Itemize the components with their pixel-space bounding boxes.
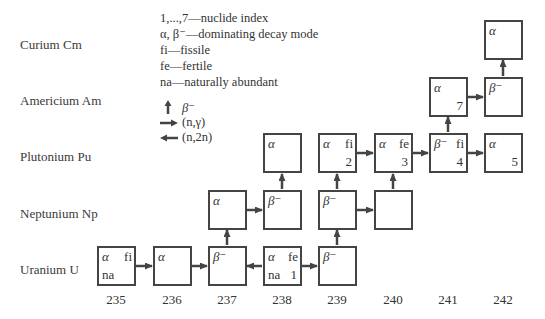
nuclide-pu238: α xyxy=(263,133,302,173)
nuclide-np240 xyxy=(374,190,413,230)
nuclide-u237: β⁻ xyxy=(208,246,247,286)
nuclide-cm242: α xyxy=(484,20,523,60)
nuclide-np237: α xyxy=(208,190,247,230)
mass-number-238: 238 xyxy=(262,292,302,308)
nuclide-am242: β⁻ xyxy=(484,77,523,117)
mass-number-239: 239 xyxy=(317,292,357,308)
nuclide-np238: β⁻ xyxy=(263,190,302,230)
nuclide-u235: α fi na xyxy=(97,246,136,286)
nuclide-u239: β⁻ xyxy=(318,246,357,286)
nuclide-pu242: α 5 xyxy=(484,133,523,173)
mass-number-242: 242 xyxy=(483,292,523,308)
mass-number-240: 240 xyxy=(373,292,413,308)
nuclide-u236: α xyxy=(153,246,192,286)
mass-number-241: 241 xyxy=(428,292,468,308)
mass-number-237: 237 xyxy=(207,292,247,308)
nuclide-pu241: β⁻ fi 4 xyxy=(429,133,468,173)
nuclide-np239: β⁻ xyxy=(318,190,357,230)
nuclide-am241: α 7 xyxy=(429,77,468,117)
nuclide-pu240: α fe 3 xyxy=(374,133,413,173)
nuclide-u238: α fe na 1 xyxy=(263,246,302,286)
nuclide-pu239: α fi 2 xyxy=(318,133,357,173)
mass-number-236: 236 xyxy=(152,292,192,308)
mass-number-235: 235 xyxy=(96,292,136,308)
